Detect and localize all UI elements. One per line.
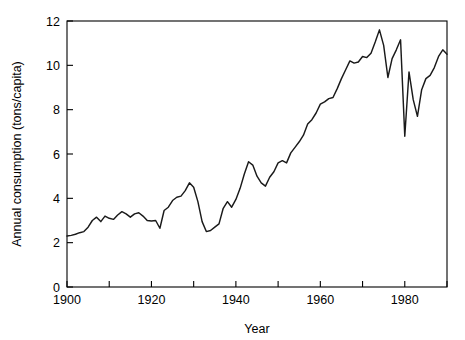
y-tick-label-6: 6 — [53, 148, 60, 162]
y-axis-ticks — [67, 21, 73, 287]
line-chart: 024681012 19001920194019601980 Annual co… — [0, 0, 465, 340]
y-tick-label-2: 2 — [53, 236, 60, 250]
x-tick-label-1980: 1980 — [391, 293, 419, 307]
x-axis-ticks — [67, 281, 447, 287]
x-tick-label-1900: 1900 — [53, 293, 81, 307]
plot-frame — [67, 21, 447, 287]
y-tick-label-10: 10 — [46, 59, 60, 73]
x-tick-label-1940: 1940 — [222, 293, 250, 307]
y-tick-label-12: 12 — [46, 15, 60, 29]
x-axis-title: Year — [244, 322, 269, 336]
chart-figure: 024681012 19001920194019601980 Annual co… — [0, 0, 465, 340]
x-tick-label-1960: 1960 — [306, 293, 334, 307]
y-axis-title: Annual consumption (tons/capita) — [10, 61, 24, 247]
x-tick-label-1920: 1920 — [138, 293, 166, 307]
consumption-line — [67, 30, 447, 236]
y-tick-label-4: 4 — [53, 192, 60, 206]
y-axis-tick-labels: 024681012 — [46, 15, 60, 295]
x-axis-tick-labels: 19001920194019601980 — [53, 293, 419, 307]
y-tick-label-8: 8 — [53, 103, 60, 117]
